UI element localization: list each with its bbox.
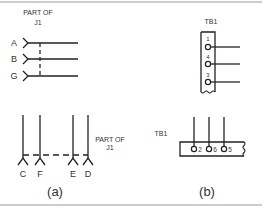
caption-b: (b): [199, 184, 215, 199]
pin-label-d: D: [85, 169, 92, 179]
pin-label-e: E: [70, 169, 76, 179]
panel-b-bottom-terminal-board: TB1 2 6 5: [155, 117, 245, 156]
terminal-number-4: 4: [206, 54, 210, 60]
contact-fork-icon: [83, 158, 93, 165]
break-line-icon: [201, 91, 215, 93]
pin-label-b: B: [11, 54, 17, 64]
terminal-number-3: 3: [206, 72, 210, 78]
j1-label: J1: [34, 19, 42, 26]
j1-label: J1: [106, 144, 114, 151]
terminal-screw-icon: [205, 61, 210, 66]
contact-fork-icon: [18, 158, 28, 165]
terminal-screw-icon: [205, 79, 210, 84]
contact-fork-icon: [23, 71, 28, 81]
pin-label-g: G: [10, 71, 17, 81]
terminal-screw-icon: [206, 146, 211, 151]
terminal-screw-icon: [221, 146, 226, 151]
part-of-label: PART OF: [95, 136, 125, 143]
terminal-number-5: 5: [228, 146, 232, 153]
panel-a-top-connector: PART OF J1 A B G: [10, 9, 78, 81]
pin-label-a: A: [11, 38, 17, 48]
break-line-icon: [243, 142, 245, 156]
tb1-label: TB1: [205, 18, 218, 25]
tb1-label: TB1: [155, 130, 168, 137]
panel-b-top-terminal-board: TB1 1 4 3: [201, 18, 240, 93]
pin-label-c: C: [20, 169, 27, 179]
contact-fork-icon: [68, 158, 78, 165]
terminal-screw-icon: [191, 146, 196, 151]
terminal-number-6: 6: [213, 146, 217, 153]
contact-fork-icon: [23, 38, 28, 48]
contact-fork-icon: [35, 158, 45, 165]
terminal-screw-icon: [205, 44, 210, 49]
schematic-figure: PART OF J1 A B G: [0, 0, 270, 213]
caption-a: (a): [47, 184, 63, 199]
part-of-label: PART OF: [23, 9, 53, 16]
terminal-number-1: 1: [206, 36, 210, 42]
contact-fork-icon: [23, 54, 28, 64]
pin-label-f: F: [37, 169, 43, 179]
terminal-number-2: 2: [198, 146, 202, 153]
panel-a-bottom-connector: C F E D PART OF J1: [18, 115, 125, 179]
